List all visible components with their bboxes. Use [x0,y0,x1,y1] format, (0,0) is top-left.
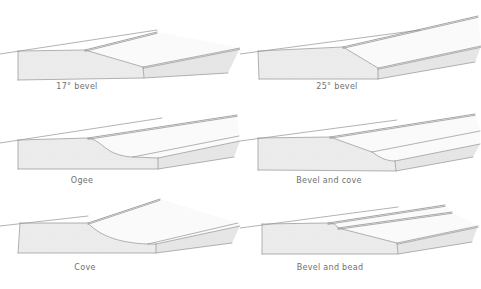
panel-25-bevel: 25° bevel [240,0,481,95]
panel-label: Bevel and bead [297,263,364,272]
panel-label: 17° bevel [56,82,97,91]
panel-17-bevel: 17° bevel [0,0,240,95]
panel-cove: Cove [0,190,240,289]
17-bevel-diagram [0,0,240,95]
panel-label: Bevel and cove [296,176,362,185]
edge-profiles-figure: 17° bevel 25° bevel Ogee Bevel and cove … [0,0,481,289]
cove-diagram [0,190,240,289]
panel-label: Ogee [71,176,93,185]
panel-bevel-and-bead: Bevel and bead [240,190,481,289]
bevel-and-bead-diagram [240,190,481,289]
panel-ogee: Ogee [0,95,240,190]
ogee-diagram [0,95,240,190]
panel-bevel-and-cove: Bevel and cove [240,95,481,190]
panel-label: Cove [74,263,95,272]
25-bevel-diagram [240,0,481,95]
panel-label: 25° bevel [316,82,357,91]
